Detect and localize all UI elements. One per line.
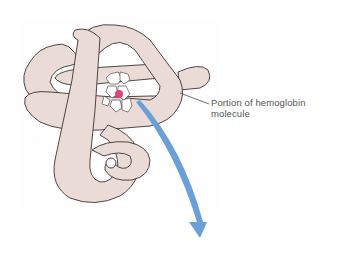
hemoglobin-diagram [0,0,342,264]
callout-label: Portion of hemoglobin molecule [211,97,306,119]
arrow-head-icon [189,222,207,238]
callout-label-line2: molecule [211,108,306,119]
callout-label-line1: Portion of hemoglobin [211,97,306,108]
shading-texture [20,20,220,210]
iron-atom-dot [115,90,123,98]
